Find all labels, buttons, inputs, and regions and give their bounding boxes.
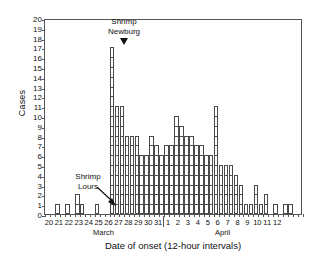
bar-case-cell <box>185 146 188 156</box>
bar-case-cell <box>215 186 218 196</box>
bar-case-cell <box>111 58 114 68</box>
bar-case-cell <box>180 195 183 205</box>
bar <box>130 136 135 214</box>
bar-case-cell <box>160 166 163 176</box>
bar-case-cell <box>289 205 292 215</box>
bar-case-cell <box>205 205 208 215</box>
y-tick-label-16: 16 <box>18 55 42 63</box>
bar-case-cell <box>140 176 143 186</box>
bar-case-cell <box>180 137 183 147</box>
bar <box>229 165 234 214</box>
bar-case-cell <box>225 186 228 196</box>
month-label-april: April <box>201 229 245 237</box>
bar-case-cell <box>225 176 228 186</box>
bar-case-cell <box>240 205 243 215</box>
bar <box>174 116 179 214</box>
bar-case-cell <box>205 186 208 196</box>
y-tick-label-18: 18 <box>18 36 42 44</box>
y-tick-label-1: 1 <box>18 202 42 210</box>
bar-case-cell <box>195 205 198 215</box>
y-tick-label-11: 11 <box>18 104 42 112</box>
bar-case-cell <box>175 127 178 137</box>
x-tick-mark-11 <box>100 214 101 217</box>
bar-case-cell <box>121 107 124 117</box>
bar-case-cell <box>250 205 253 215</box>
bar-case-cell <box>200 176 203 186</box>
bar-case-cell <box>230 205 233 215</box>
annotation-shrimp-newburg-line2: Newburg <box>86 27 162 37</box>
bar-case-cell <box>155 205 158 215</box>
bar <box>169 145 174 214</box>
bar-case-cell <box>190 176 193 186</box>
bar-case-cell <box>185 166 188 176</box>
bar-case-cell <box>111 88 114 98</box>
bar <box>149 136 154 214</box>
bar-case-cell <box>131 186 134 196</box>
x-tick-label-april-12: 12 <box>269 219 285 227</box>
bar <box>179 126 184 214</box>
bar-case-cell <box>150 205 153 215</box>
bar-case-cell <box>160 156 163 166</box>
y-tick-mark-19 <box>42 30 45 31</box>
y-tick-label-13: 13 <box>18 85 42 93</box>
bar-case-cell <box>155 156 158 166</box>
bar <box>224 165 229 214</box>
bar-case-cell <box>185 186 188 196</box>
x-tick-mark-47 <box>278 214 279 217</box>
bar <box>194 145 199 214</box>
bar-case-cell <box>180 205 183 215</box>
bar-case-cell <box>215 166 218 176</box>
bar-case-cell <box>230 195 233 205</box>
bar-case-cell <box>185 176 188 186</box>
bar-case-cell <box>170 195 173 205</box>
bar-case-cell <box>195 186 198 196</box>
y-tick-mark-11 <box>42 108 45 109</box>
bar-case-cell <box>180 166 183 176</box>
bar-case-cell <box>215 156 218 166</box>
bar <box>65 204 70 214</box>
bar-case-cell <box>150 186 153 196</box>
bar <box>189 136 194 214</box>
bar-case-cell <box>131 146 134 156</box>
y-tick-mark-18 <box>42 40 45 41</box>
bar-case-cell <box>210 176 213 186</box>
bar-case-cell <box>136 146 139 156</box>
y-tick-label-14: 14 <box>18 75 42 83</box>
bar-case-cell <box>131 156 134 166</box>
bar-case-cell <box>235 205 238 215</box>
bar-case-cell <box>121 146 124 156</box>
bar <box>219 165 224 214</box>
y-tick-label-3: 3 <box>18 183 42 191</box>
bar <box>239 185 244 214</box>
bar-case-cell <box>111 48 114 58</box>
y-tick-label-19: 19 <box>18 26 42 34</box>
bar-case-cell <box>255 195 258 205</box>
bar-case-cell <box>215 205 218 215</box>
bar-case-cell <box>180 156 183 166</box>
bar-case-cell <box>185 205 188 215</box>
y-tick-label-5: 5 <box>18 163 42 171</box>
bar-case-cell <box>111 68 114 78</box>
bar <box>139 155 144 214</box>
bar-case-cell <box>126 146 129 156</box>
y-tick-label-9: 9 <box>18 124 42 132</box>
bar-case-cell <box>145 166 148 176</box>
bar-case-cell <box>225 166 228 176</box>
bar-case-cell <box>190 205 193 215</box>
bar-case-cell <box>155 176 158 186</box>
diagonal-arrow-icon <box>96 186 118 208</box>
y-tick-label-20: 20 <box>18 16 42 24</box>
bar-case-cell <box>131 137 134 147</box>
bar-case-cell <box>175 186 178 196</box>
bar-case-cell <box>140 195 143 205</box>
bar-case-cell <box>155 186 158 196</box>
bar-case-cell <box>175 156 178 166</box>
bar-case-cell <box>76 205 79 215</box>
bar-case-cell <box>111 137 114 147</box>
x-tick-mark-3 <box>60 214 61 217</box>
y-tick-mark-10 <box>42 118 45 119</box>
bar-case-cell <box>235 195 238 205</box>
bar-case-cell <box>165 156 168 166</box>
bar-case-cell <box>121 205 124 215</box>
bar-case-cell <box>255 186 258 196</box>
